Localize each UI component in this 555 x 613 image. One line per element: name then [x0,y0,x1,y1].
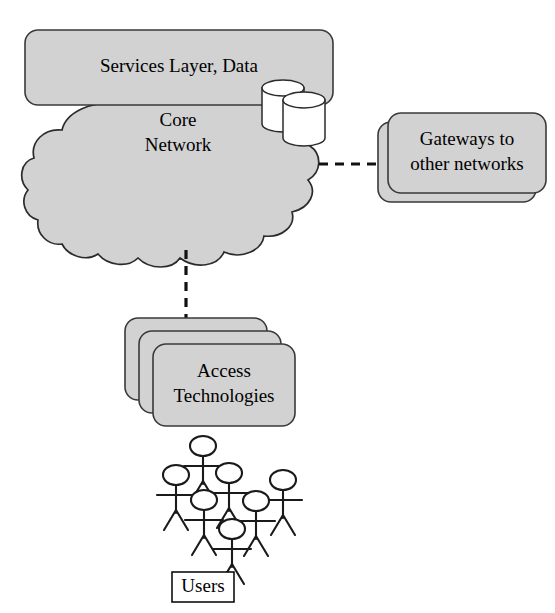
user-figures-group[interactable] [157,436,302,584]
node-gateways[interactable]: Gateways to other networks [378,113,546,202]
core-network-label-line1: Core [160,109,197,130]
node-access-technologies[interactable]: Access Technologies [125,318,295,426]
services-layer-label: Services Layer, Data [100,55,259,76]
database-cylinder-icon-front [283,92,325,146]
diagram-canvas: Core Network Services Layer, Data [0,0,555,613]
stick-figure-icon [185,490,223,555]
gateways-label-line2: other networks [410,153,523,174]
core-network-label-line2: Network [145,134,212,155]
network-diagram: Core Network Services Layer, Data [0,0,555,613]
gateways-label-line1: Gateways to [420,128,514,149]
node-users-label[interactable]: Users [172,572,234,602]
access-label-line2: Technologies [173,385,274,406]
users-label: Users [181,575,224,596]
access-label-line1: Access [197,360,251,381]
